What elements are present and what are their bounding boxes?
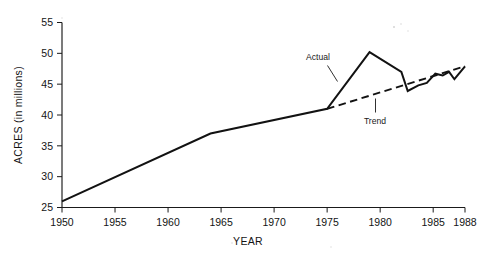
scan-artifacts bbox=[61, 17, 408, 247]
actual-annotation-label: Actual bbox=[306, 52, 330, 62]
x-tick-label: 1965 bbox=[209, 216, 233, 228]
x-axis-title: YEAR bbox=[233, 235, 263, 247]
x-tick-label: 1975 bbox=[315, 216, 339, 228]
trend-annotation-label: Trend bbox=[364, 116, 386, 126]
y-tick-label: 45 bbox=[41, 78, 53, 90]
x-tick-label: 1970 bbox=[262, 216, 286, 228]
y-tick-label: 35 bbox=[41, 140, 53, 152]
y-tick-labels: 25303540455055 bbox=[41, 16, 53, 213]
series-trend-line bbox=[327, 66, 465, 109]
x-tick-label: 1960 bbox=[156, 216, 180, 228]
x-tick-label: 1985 bbox=[422, 216, 446, 228]
x-axis bbox=[62, 208, 465, 213]
x-tick-label: 1980 bbox=[368, 216, 392, 228]
x-tick-label: 1950 bbox=[50, 216, 74, 228]
y-tick-label: 25 bbox=[41, 201, 53, 213]
x-tick-labels: 195019551960196519701975198019851988 bbox=[50, 216, 477, 228]
x-tick-label: 1955 bbox=[103, 216, 127, 228]
annotations: Actual Trend bbox=[306, 52, 386, 126]
y-tick-label: 40 bbox=[41, 109, 53, 121]
y-tick-label: 50 bbox=[41, 47, 53, 59]
actual-leader-line bbox=[328, 66, 338, 82]
chart-container: 25303540455055 1950195519601965197019751… bbox=[0, 0, 498, 262]
acres-line-chart: 25303540455055 1950195519601965197019751… bbox=[0, 0, 498, 262]
y-tick-label: 55 bbox=[41, 16, 53, 28]
y-tick-label: 30 bbox=[41, 170, 53, 182]
x-tick-label: 1988 bbox=[453, 216, 477, 228]
series-actual-line bbox=[62, 52, 465, 201]
y-axis-title: ACRES (in millions) bbox=[12, 66, 24, 164]
y-axis bbox=[57, 23, 62, 208]
